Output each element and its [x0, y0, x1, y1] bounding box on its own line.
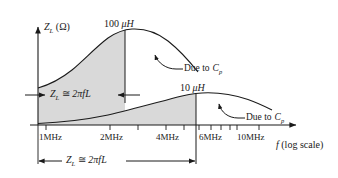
lower-span-equation-subscript: L — [72, 160, 76, 167]
area-fill-100uh — [38, 30, 125, 125]
peak-label-10uh: 10 μH — [180, 83, 205, 93]
lower-span-equation-expr: 2πfL — [88, 154, 106, 165]
xtick-label-1mhz: 1MHz — [39, 133, 62, 142]
annotation-due-to-cp-100uh: Due toCp — [184, 64, 222, 75]
y-axis-label-unit: (Ω) — [56, 21, 70, 32]
xtick-label-2mhz: 2MHz — [100, 133, 123, 142]
xtick-label-10mhz: 10MHz — [237, 133, 265, 142]
leader-curve-10uh — [219, 104, 238, 118]
peak-label-100uh-unit: μH — [122, 18, 134, 29]
y-axis-label-subscript: L — [50, 27, 54, 34]
annotation-due-to-cp-100uh-subscript: p — [219, 68, 222, 75]
leader-curve-100uh — [155, 55, 176, 69]
y-axis-label: ZL (Ω) — [44, 22, 70, 35]
upper-span-equation: ZL ≅ 2πfL — [50, 89, 91, 102]
annotation-due-to-cp-10uh: Due toCp — [246, 113, 284, 124]
xtick-label-6mhz: 6MHz — [199, 133, 222, 142]
x-axis-label-var: f — [276, 139, 279, 150]
peak-label-100uh-value: 100 — [104, 18, 119, 29]
inductor-impedance-figure: ZL (Ω) 100 μH Due toCp ZL ≅ 2πfL 10 μH D… — [0, 0, 338, 178]
peak-label-10uh-value: 10 — [180, 82, 190, 93]
xtick-label-4mhz: 4MHz — [156, 133, 179, 142]
upper-span-equation-expr: 2πfL — [72, 88, 90, 99]
upper-span-equation-relation: ≅ — [62, 88, 70, 99]
upper-span-equation-subscript: L — [56, 94, 60, 101]
x-axis-label: f (log scale) — [276, 140, 323, 150]
lower-span-equation-relation: ≅ — [78, 154, 86, 165]
lower-span-equation: ZL ≅ 2πfL — [66, 155, 107, 168]
peak-label-100uh: 100 μH — [104, 19, 134, 29]
annotation-due-to-cp-10uh-subscript: p — [281, 117, 284, 124]
annotation-due-to-cp-10uh-text: Due to — [246, 112, 272, 122]
x-axis-label-scale: (log scale) — [281, 139, 323, 150]
x-axis-ticks — [46, 125, 259, 130]
peak-label-10uh-unit: μH — [193, 82, 205, 93]
annotation-due-to-cp-100uh-text: Due to — [184, 63, 210, 73]
